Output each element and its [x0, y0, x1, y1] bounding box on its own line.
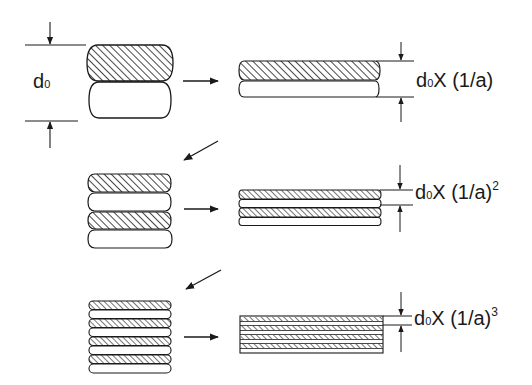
label-factor: (1/a) — [450, 307, 491, 329]
stage-3-rolled — [240, 316, 383, 353]
stage-2-rolled — [239, 190, 381, 226]
label-exponent: 2 — [492, 179, 499, 193]
stage-3-thickness-dimension — [383, 292, 412, 352]
stage-2-thickness-dimension — [380, 165, 413, 232]
label-factor: (1/a) — [452, 69, 493, 91]
stage-1-stack — [87, 45, 173, 118]
label-sub: 0 — [44, 78, 50, 90]
label-factor: (1/a) — [451, 181, 492, 203]
stage-1-rolled — [239, 61, 380, 97]
label-d: d — [414, 307, 425, 329]
stage-3-thickness-label: d0X (1/a)3 — [414, 307, 498, 328]
arrow-to-stage-2 — [184, 141, 218, 160]
label-main: d — [33, 70, 44, 92]
label-d: d — [415, 181, 426, 203]
label-d: d — [416, 69, 427, 91]
stage-2-stack — [88, 174, 172, 248]
stage-1-thickness-label: d0X (1/a) — [416, 70, 493, 90]
label-operator: X — [432, 181, 445, 203]
stage-1-thickness-dimension — [376, 42, 414, 122]
stage-3-stack — [89, 301, 171, 373]
label-operator: X — [431, 307, 444, 329]
label-operator: X — [433, 69, 446, 91]
layer-rolling-diagram: d0 d0X (1/a) d0X (1/a)2 d0X (1/a)3 — [0, 0, 532, 385]
label-exponent: 3 — [491, 305, 498, 319]
initial-thickness-label: d0 — [33, 71, 50, 91]
arrow-to-stage-3 — [186, 270, 221, 289]
stage-2-thickness-label: d0X (1/a)2 — [415, 181, 499, 202]
